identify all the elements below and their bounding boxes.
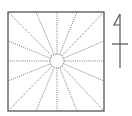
ray — [8, 41, 51, 58]
ray — [36, 12, 54, 55]
ray — [60, 67, 77, 111]
ray — [63, 41, 104, 58]
center-circle — [50, 54, 64, 68]
ray — [36, 67, 54, 111]
ray — [8, 64, 51, 81]
ray — [60, 12, 77, 55]
radial-diagram — [0, 0, 132, 116]
ray — [63, 64, 104, 81]
north-arrow-icon — [112, 14, 128, 68]
